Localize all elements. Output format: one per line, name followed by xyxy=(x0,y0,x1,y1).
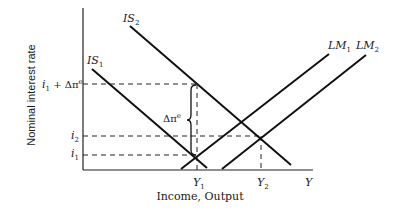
x-axis-title: Income, Output xyxy=(156,190,244,203)
label-lm1: LM1 xyxy=(327,39,351,54)
label-is2: IS2 xyxy=(122,12,139,27)
label-delta-pi-e: Δπe xyxy=(163,112,181,124)
curve-lm2 xyxy=(222,55,366,169)
curve-lm1 xyxy=(181,54,329,169)
label-is1: IS1 xyxy=(86,54,103,69)
tick-i1: i1 xyxy=(71,147,79,162)
label-lm2: LM2 xyxy=(355,39,379,54)
tick-i2: i2 xyxy=(71,129,79,144)
is-lm-diagram: IS2 IS1 LM1 LM2 i1 + Δπe i2 i1 Δπe Y1 Y2… xyxy=(0,0,393,210)
curve-is2 xyxy=(130,26,291,165)
tick-i1-plus-delta: i1 + Δπe xyxy=(42,78,83,93)
delta-pi-brace xyxy=(187,85,196,155)
y-axis-title: Nominal interest rate xyxy=(25,44,37,146)
tick-Y2: Y2 xyxy=(257,176,269,191)
x-axis-end-label: Y xyxy=(305,176,314,189)
tick-Y1: Y1 xyxy=(193,176,205,191)
